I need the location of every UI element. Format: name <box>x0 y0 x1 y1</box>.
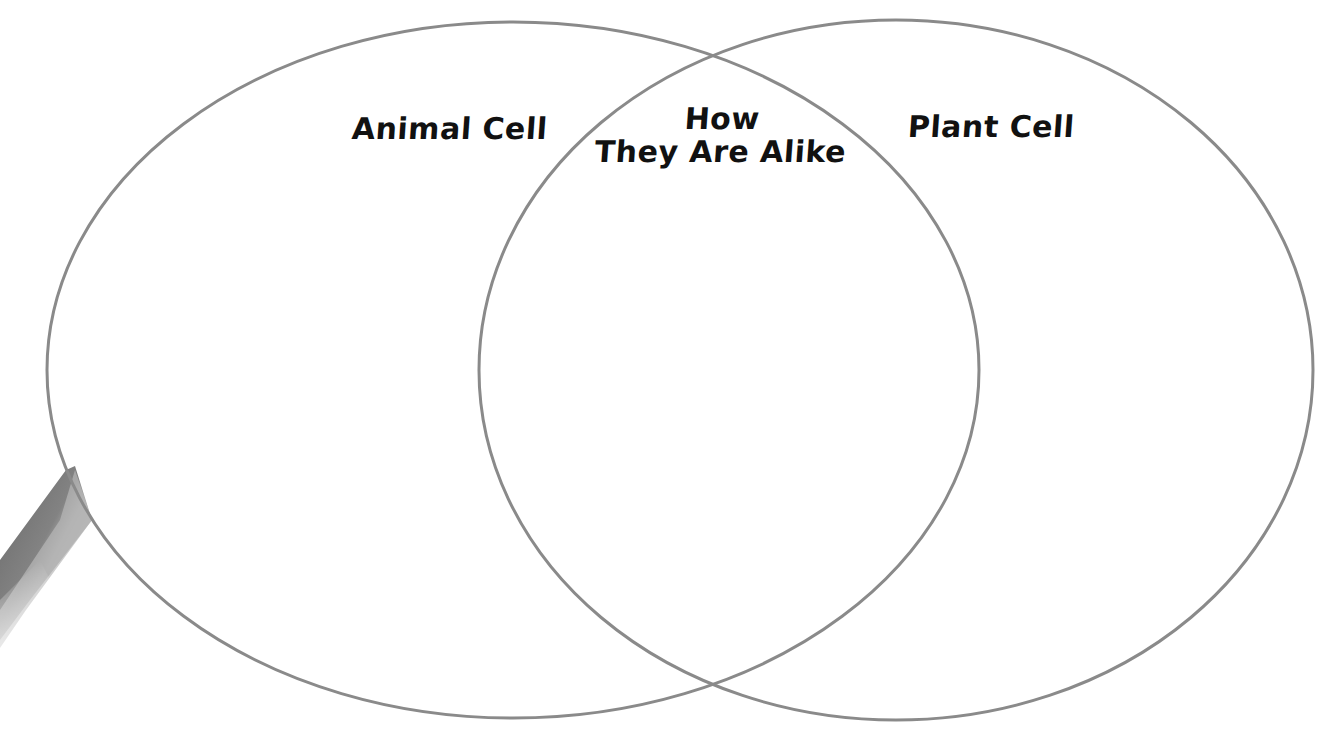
overlap-label-line2: They Are Alike <box>594 135 846 168</box>
pencil-icon <box>0 466 92 700</box>
venn-diagram: Animal Cell How They Are Alike Plant Cel… <box>0 0 1331 751</box>
plant-cell-label: Plant Cell <box>907 110 1076 143</box>
overlap-label-line1: How <box>596 102 848 135</box>
overlap-label: How They Are Alike <box>594 102 849 168</box>
animal-cell-label: Animal Cell <box>351 112 549 145</box>
